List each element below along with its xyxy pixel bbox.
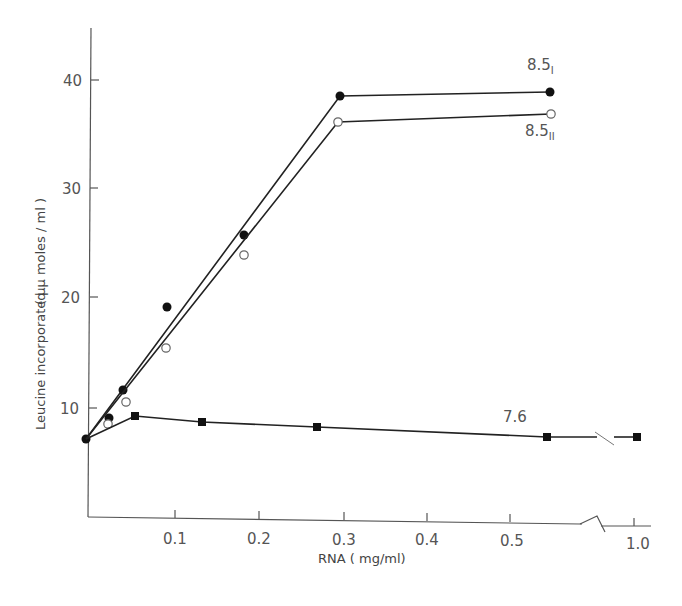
y-axis-units: ( μμ moles / ml ): [33, 198, 48, 305]
x-axis: [88, 510, 651, 532]
series-8-5-II: [86, 110, 555, 439]
x-tick-0.2: 0.2: [247, 530, 271, 548]
y-tick-40: 40: [63, 72, 82, 90]
label-7-6: 7.6: [503, 408, 527, 426]
y-tick-30: 30: [62, 180, 81, 198]
x-tick-0.4: 0.4: [415, 531, 439, 549]
y-axis: [88, 28, 99, 517]
label-8-5-I: 8.5I: [527, 56, 554, 76]
y-axis-title: Leucine incorporated: [33, 292, 48, 430]
x-axis-title: RNA ( mg/ml): [318, 551, 406, 566]
y-tick-20: 20: [61, 289, 80, 307]
x-tick-labels: 0.1 0.2 0.3 0.4 0.5 1.0: [163, 530, 650, 553]
x-tick-0.1: 0.1: [163, 530, 187, 548]
x-tick-0.5: 0.5: [500, 532, 524, 550]
x-tick-1.0: 1.0: [626, 535, 650, 553]
chart: 40 30 20 10 0.1 0.2 0.3 0.4 0.5 1.0 Leuc…: [0, 0, 682, 606]
x-tick-0.3: 0.3: [332, 531, 356, 549]
y-tick-10: 10: [60, 400, 79, 418]
series-7-6: [86, 412, 641, 445]
y-tick-labels: 40 30 20 10: [60, 72, 82, 418]
series-8-5-I: [82, 88, 555, 444]
label-8-5-II: 8.5II: [525, 122, 555, 142]
